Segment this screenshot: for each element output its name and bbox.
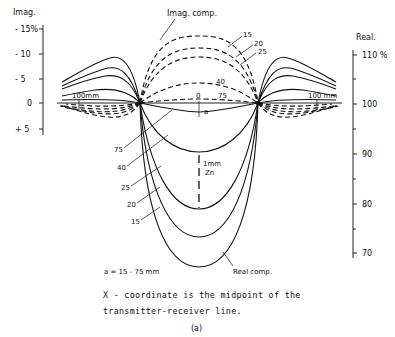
center-marker: 0 a 1mm Zn [196, 92, 221, 208]
imag-label-20: 20 [254, 40, 263, 48]
target-label-material: Zn [205, 169, 214, 177]
imag-label-40: 40 [216, 78, 225, 86]
imag-label-15: 15 [243, 31, 252, 39]
right-tick-label: 80 [362, 200, 372, 209]
imag-annotations: Imag. comp. 15 20 25 40 75 [160, 9, 267, 100]
left-axis: Imag. - 15% - 10 - 5 0 + 5 [13, 8, 43, 135]
distance-mark-right: 100 mm [308, 92, 337, 100]
right-tick-label: 100 [362, 100, 377, 109]
right-tick-label: 70 [362, 249, 372, 258]
imag-label-75: 75 [218, 92, 227, 100]
left-tick-label: - 15% [15, 25, 39, 34]
imag-comp-title: Imag. comp. [167, 9, 217, 18]
right-tick-label: 90 [362, 150, 372, 159]
chart-figure: Imag. - 15% - 10 - 5 0 + 5 Real. 110 % 1… [0, 0, 395, 337]
right-tick-label: 110 % [362, 51, 388, 60]
right-axis-label: Real. [356, 33, 376, 42]
left-tick-label: 0 [27, 99, 32, 108]
imag-label-25: 25 [258, 48, 267, 56]
distance-mark-left: 100mm [72, 92, 99, 100]
caption-line-1: X - coordinate is the midpoint of the [103, 290, 301, 300]
parameter-note: a = 15 - 75 mm [104, 268, 159, 276]
target-label-size: 1mm [203, 160, 221, 168]
real-label-15: 15 [131, 218, 140, 226]
left-axis-label: Imag. [13, 8, 36, 17]
center-label: 0 [196, 92, 200, 100]
caption-line-2: transmitter-receiver line. [103, 306, 242, 316]
left-tick-label: - 5 [15, 75, 26, 84]
real-label-75: 75 [114, 146, 123, 154]
real-comp-title: Real comp. [233, 268, 272, 276]
left-tick-label: - 10 [15, 50, 31, 59]
real-label-20: 20 [127, 201, 136, 209]
real-annotations: 75 40 25 20 15 Real comp. [114, 110, 272, 276]
real-label-25: 25 [121, 184, 130, 192]
right-axis: Real. 110 % 100 90 80 70 [353, 33, 388, 258]
depth-label: a [204, 108, 208, 116]
left-tick-label: + 5 [15, 125, 29, 134]
figure-subtitle: (a) [191, 324, 202, 333]
real-label-40: 40 [117, 164, 126, 172]
